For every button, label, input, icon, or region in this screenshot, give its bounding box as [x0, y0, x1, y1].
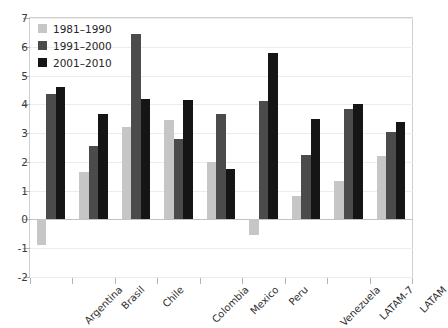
- bar: [292, 196, 302, 219]
- x-tick-label: Brasil: [119, 284, 146, 311]
- bar: [79, 172, 89, 219]
- bar: [183, 100, 193, 219]
- x-tick-label: LATAM-7: [378, 284, 416, 322]
- bar: [207, 162, 217, 220]
- legend-swatch-icon: [38, 41, 47, 50]
- bar: [249, 219, 259, 235]
- y-tick-label: 4: [0, 96, 28, 112]
- bar: [377, 156, 387, 219]
- y-tick-label: 0: [0, 211, 28, 227]
- legend-item[interactable]: 1981–1990: [38, 21, 112, 36]
- bar: [311, 119, 321, 220]
- bar: [56, 87, 66, 219]
- x-tick-mark: [285, 278, 286, 284]
- x-tick-label: Mexico: [248, 284, 280, 316]
- x-tick-label: Chile: [160, 284, 185, 309]
- x-tick-mark: [242, 278, 243, 284]
- x-tick-label: Peru: [287, 284, 311, 308]
- x-tick-mark: [412, 278, 413, 284]
- legend-label: 1991–2000: [53, 40, 112, 52]
- y-tick-label: 3: [0, 125, 28, 141]
- x-tick-mark: [72, 278, 73, 284]
- bar: [174, 139, 184, 220]
- legend-label: 2001–2010: [53, 57, 112, 69]
- y-tick-label: 2: [0, 154, 28, 170]
- x-tick-mark: [30, 278, 31, 284]
- x-tick-mark: [157, 278, 158, 284]
- legend-label: 1981–1990: [53, 23, 112, 35]
- x-tick-label: Colombia: [209, 284, 250, 325]
- zero-line: [30, 219, 413, 220]
- bar: [259, 101, 269, 219]
- y-tick-label: -1: [0, 240, 28, 256]
- bar: [131, 34, 141, 220]
- bar: [46, 94, 56, 219]
- bar: [386, 132, 396, 220]
- bar: [301, 155, 311, 220]
- bar: [334, 181, 344, 220]
- x-tick-label: LATAM: [417, 284, 448, 315]
- y-tick-label: 7: [0, 10, 28, 26]
- bar: [37, 219, 47, 245]
- bar: [396, 122, 406, 220]
- gridline: [30, 277, 413, 278]
- y-tick-label: -2: [0, 269, 28, 285]
- bar: [353, 104, 363, 219]
- x-tick-label: Argentina: [83, 284, 125, 326]
- bar: [98, 114, 108, 220]
- x-tick-mark: [370, 278, 371, 284]
- bar: [344, 109, 354, 220]
- gridline: [30, 76, 413, 77]
- bar: [268, 53, 278, 220]
- x-tick-mark: [327, 278, 328, 284]
- legend-item[interactable]: 1991–2000: [38, 38, 112, 53]
- gridline: [30, 18, 413, 19]
- y-tick-label: 5: [0, 68, 28, 84]
- x-tick-label: Venezuela: [338, 284, 382, 328]
- bar: [164, 120, 174, 219]
- y-tick-label: 6: [0, 39, 28, 55]
- bar: [216, 114, 226, 219]
- legend-swatch-icon: [38, 58, 47, 67]
- legend-swatch-icon: [38, 24, 47, 33]
- x-tick-mark: [115, 278, 116, 284]
- bar: [122, 127, 132, 219]
- bar: [89, 146, 99, 219]
- gridline: [30, 248, 413, 249]
- bar: [141, 99, 151, 220]
- bar: [226, 169, 236, 219]
- chart-legend: 1981–19901991–20002001–2010: [38, 21, 112, 70]
- legend-item[interactable]: 2001–2010: [38, 55, 112, 70]
- y-tick-label: 1: [0, 183, 28, 199]
- x-tick-mark: [200, 278, 201, 284]
